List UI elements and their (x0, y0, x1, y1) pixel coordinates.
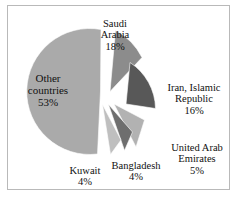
slice-label-line1: Saudi (88, 18, 142, 29)
slice-label-iran: Iran, Islamic Republic 16% (154, 82, 234, 116)
slice-label-line2: Arabia (88, 29, 142, 40)
slice-label-united-arab-emirates: United Arab Emirates 5% (160, 142, 234, 176)
slice-label-line1: United Arab (160, 142, 234, 153)
slice-label-line2: Republic (154, 93, 234, 104)
slice-label-other-countries: Other countries 53% (14, 73, 82, 109)
slice-label-line1: Bangladesh (104, 160, 168, 171)
slice-label-line2: countries (14, 85, 82, 97)
slice-label-kuwait: Kuwait 4% (62, 165, 108, 188)
slice-label-bangladesh: Bangladesh 4% (104, 160, 168, 183)
pie-chart: Saudi Arabia 18% Other countries 53% Ira… (0, 0, 237, 197)
slice-percent: 4% (104, 171, 168, 182)
slice-percent: 18% (88, 41, 142, 52)
slice-label-saudi-arabia: Saudi Arabia 18% (88, 18, 142, 52)
pie-slice-iran[interactable] (126, 63, 156, 109)
slice-percent: 4% (62, 176, 108, 187)
slice-label-line2: Emirates (160, 153, 234, 164)
slice-label-line1: Kuwait (62, 165, 108, 176)
slice-percent: 53% (14, 97, 82, 109)
slice-percent: 5% (160, 165, 234, 176)
slice-label-line1: Iran, Islamic (154, 82, 234, 93)
slice-percent: 16% (154, 105, 234, 116)
